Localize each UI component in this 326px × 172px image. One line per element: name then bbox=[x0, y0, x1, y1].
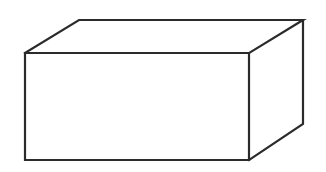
diagram-canvas bbox=[0, 0, 326, 172]
rectangular-prism-diagram bbox=[0, 0, 326, 172]
front-face bbox=[25, 53, 249, 160]
